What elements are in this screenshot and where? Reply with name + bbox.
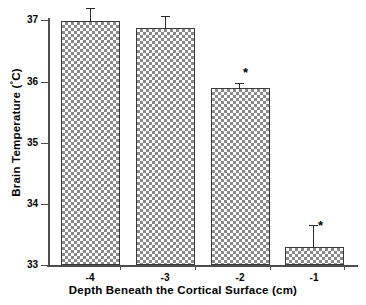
y-tick-34 bbox=[41, 204, 48, 205]
y-axis-title: Brain Temperature (°C) bbox=[8, 7, 23, 257]
significance-marker-minus1: * bbox=[318, 219, 323, 232]
y-tick-label-33: 33 bbox=[2, 259, 38, 270]
x-tick-label-minus4: -4 bbox=[70, 272, 110, 283]
y-tick-33 bbox=[41, 265, 48, 266]
x-tick-label-minus1: -1 bbox=[294, 272, 334, 283]
brain-temperature-bar-chart: Brain Temperature (°C) 33 34 35 36 37 * … bbox=[0, 0, 366, 305]
y-axis-line bbox=[48, 18, 50, 267]
bar-depth-minus3[interactable] bbox=[136, 28, 195, 265]
x-tick-label-minus2: -2 bbox=[220, 272, 260, 283]
error-bar-line-minus1 bbox=[313, 225, 314, 248]
error-bar-cap-minus1 bbox=[309, 225, 318, 226]
x-axis-title: Depth Beneath the Cortical Surface (cm) bbox=[0, 284, 366, 296]
y-tick-label-37: 37 bbox=[2, 14, 38, 25]
error-bar-cap-minus3 bbox=[161, 16, 170, 17]
y-tick-35 bbox=[41, 143, 48, 144]
x-tick-2 bbox=[270, 265, 271, 270]
y-axis-title-container: Brain Temperature (°C) bbox=[0, 0, 26, 270]
y-tick-label-36: 36 bbox=[2, 76, 38, 87]
bar-depth-minus1[interactable] bbox=[285, 247, 344, 265]
x-tick-3 bbox=[344, 265, 345, 270]
x-tick-0 bbox=[120, 265, 121, 270]
y-tick-label-34: 34 bbox=[2, 198, 38, 209]
error-bar-line-minus3 bbox=[165, 16, 166, 29]
x-axis-line bbox=[47, 265, 358, 267]
x-tick-label-minus3: -3 bbox=[145, 272, 185, 283]
y-tick-label-35: 35 bbox=[2, 137, 38, 148]
error-bar-cap-minus2 bbox=[235, 83, 244, 84]
error-bar-line-minus4 bbox=[90, 8, 91, 22]
x-tick-1 bbox=[195, 265, 196, 270]
y-tick-36 bbox=[41, 82, 48, 83]
error-bar-cap-minus4 bbox=[86, 8, 95, 9]
y-tick-37 bbox=[41, 20, 48, 21]
bar-depth-minus2[interactable] bbox=[211, 88, 270, 265]
significance-marker-minus2: * bbox=[243, 66, 248, 79]
bar-depth-minus4[interactable] bbox=[61, 21, 120, 265]
